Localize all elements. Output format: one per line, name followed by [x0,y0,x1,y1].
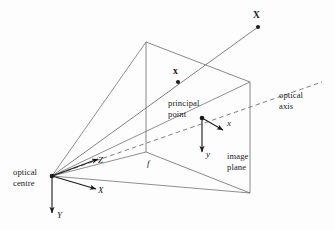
world-axis-z-arrow [52,159,98,176]
world-axis-x-label: X [98,186,104,196]
marked-points [176,25,260,84]
optical-axis-label-line1: optical [279,91,303,100]
scene-point-marker [256,25,260,29]
optical-axis-label-line2: axis [279,102,293,111]
world-axis-z-label: Z [98,156,103,166]
principal-point-label-line2: point [168,110,186,119]
image-axis-x-label: x [227,119,231,129]
principal-point-label-line1: principal [168,99,199,108]
focal-length-label: f [147,159,150,169]
optical-centre-point [50,174,55,179]
optical-centre-label-line1: optical [13,168,37,177]
image-point-label: x [173,66,178,76]
image-plane-label-line2: plane [227,163,246,172]
image-plane-label-line1: image [227,152,249,161]
image-point-marker [176,80,180,84]
image-coordinate-axes [200,116,223,152]
image-axis-y-label: y [206,150,210,160]
principal-point-marker [200,116,205,121]
optical-centre-label-line2: centre [13,179,35,188]
pinhole-camera-figure: X x principal point optical axis image p… [0,0,335,230]
world-axis-y-label: Y [57,211,62,221]
world-coordinate-axes [50,159,98,213]
scene-point-label: X [253,10,260,20]
